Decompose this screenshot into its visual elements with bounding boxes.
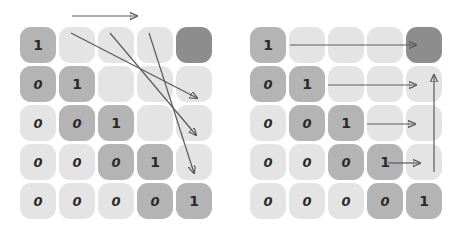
matrix-cell-value: 1	[289, 66, 325, 102]
right-matrix-grid: 101001000100001	[250, 27, 445, 222]
matrix-cell-r5-c3: 0	[328, 183, 364, 219]
matrix-cell-value	[328, 27, 364, 63]
matrix-cell-r1-c1: 1	[20, 27, 56, 63]
matrix-cell-value	[137, 27, 173, 63]
matrix-cell-value	[98, 66, 134, 102]
matrix-cell-value: 0	[328, 144, 364, 180]
matrix-cell-r5-c4: 0	[137, 183, 173, 219]
matrix-cell-r1-c3	[98, 27, 134, 63]
matrix-cell-value: 0	[20, 66, 56, 102]
matrix-cell-r3-c4	[367, 105, 403, 141]
matrix-cell-value: 0	[98, 183, 134, 219]
matrix-cell-r1-c4	[367, 27, 403, 63]
matrix-cell-r4-c4: 1	[367, 144, 403, 180]
matrix-cell-value: 0	[59, 144, 95, 180]
matrix-cell-r5-c1: 0	[20, 183, 56, 219]
matrix-cell-r1-c2	[289, 27, 325, 63]
matrix-cell-r3-c5	[176, 105, 212, 141]
matrix-cell-r1-c2	[59, 27, 95, 63]
matrix-cell-value: 0	[328, 183, 364, 219]
matrix-cell-value	[137, 66, 173, 102]
matrix-cell-r1-c3	[328, 27, 364, 63]
matrix-cell-value	[176, 66, 212, 102]
matrix-cell-value	[367, 27, 403, 63]
matrix-cell-r5-c5: 1	[176, 183, 212, 219]
matrix-cell-r1-c5	[176, 27, 212, 63]
matrix-cell-r2-c1: 0	[20, 66, 56, 102]
matrix-cell-value	[98, 27, 134, 63]
matrix-cell-r4-c3: 0	[328, 144, 364, 180]
matrix-cell-r4-c1: 0	[250, 144, 286, 180]
matrix-cell-r3-c4	[137, 105, 173, 141]
matrix-cell-value	[406, 105, 442, 141]
matrix-cell-value: 0	[289, 144, 325, 180]
matrix-cell-value	[176, 27, 212, 63]
matrix-cell-value: 0	[289, 105, 325, 141]
matrix-cell-value	[137, 105, 173, 141]
left-matrix-grid: 101001000100001	[20, 27, 215, 222]
matrix-cell-value	[176, 105, 212, 141]
matrix-cell-r4-c2: 0	[59, 144, 95, 180]
matrix-cell-value: 0	[20, 105, 56, 141]
matrix-cell-value: 1	[98, 105, 134, 141]
figure-canvas: 101001000100001 101001000100001	[0, 0, 460, 240]
matrix-cell-r5-c2: 0	[59, 183, 95, 219]
matrix-cell-r2-c2: 1	[289, 66, 325, 102]
matrix-cell-value: 1	[137, 144, 173, 180]
matrix-cell-r4-c1: 0	[20, 144, 56, 180]
matrix-cell-value: 0	[137, 183, 173, 219]
matrix-cell-value: 1	[367, 144, 403, 180]
matrix-cell-value: 0	[59, 183, 95, 219]
matrix-cell-r2-c4	[367, 66, 403, 102]
matrix-cell-value: 0	[250, 105, 286, 141]
matrix-cell-r2-c5	[406, 66, 442, 102]
matrix-cell-r2-c4	[137, 66, 173, 102]
matrix-cell-r4-c2: 0	[289, 144, 325, 180]
matrix-cell-value: 0	[250, 183, 286, 219]
matrix-cell-value: 0	[289, 183, 325, 219]
matrix-cell-value	[328, 66, 364, 102]
matrix-cell-value: 0	[59, 105, 95, 141]
matrix-cell-value	[59, 27, 95, 63]
matrix-cell-r3-c5	[406, 105, 442, 141]
matrix-cell-r5-c4: 0	[367, 183, 403, 219]
matrix-cell-r2-c5	[176, 66, 212, 102]
matrix-cell-r1-c4	[137, 27, 173, 63]
matrix-cell-value: 0	[20, 183, 56, 219]
matrix-cell-value: 1	[59, 66, 95, 102]
matrix-cell-value	[406, 144, 442, 180]
matrix-cell-value: 1	[20, 27, 56, 63]
matrix-cell-value: 0	[250, 144, 286, 180]
matrix-cell-r4-c5	[176, 144, 212, 180]
matrix-cell-r2-c3	[98, 66, 134, 102]
matrix-cell-value	[367, 105, 403, 141]
right-matrix-panel: 101001000100001	[230, 0, 460, 240]
matrix-cell-r3-c2: 0	[289, 105, 325, 141]
matrix-cell-r1-c5	[406, 27, 442, 63]
left-matrix-panel: 101001000100001	[0, 0, 230, 240]
matrix-cell-r5-c5: 1	[406, 183, 442, 219]
matrix-cell-value	[176, 144, 212, 180]
matrix-cell-r2-c1: 0	[250, 66, 286, 102]
matrix-cell-r2-c3	[328, 66, 364, 102]
matrix-cell-r4-c3: 0	[98, 144, 134, 180]
matrix-cell-value	[289, 27, 325, 63]
matrix-cell-r5-c3: 0	[98, 183, 134, 219]
matrix-cell-r5-c1: 0	[250, 183, 286, 219]
matrix-cell-r5-c2: 0	[289, 183, 325, 219]
matrix-cell-r1-c1: 1	[250, 27, 286, 63]
matrix-cell-r4-c5	[406, 144, 442, 180]
matrix-cell-r3-c1: 0	[250, 105, 286, 141]
matrix-cell-value	[406, 66, 442, 102]
matrix-cell-value: 1	[328, 105, 364, 141]
matrix-cell-r4-c4: 1	[137, 144, 173, 180]
matrix-cell-r3-c3: 1	[328, 105, 364, 141]
matrix-cell-value: 0	[98, 144, 134, 180]
matrix-cell-value: 0	[367, 183, 403, 219]
matrix-cell-r2-c2: 1	[59, 66, 95, 102]
matrix-cell-value: 1	[250, 27, 286, 63]
matrix-cell-value: 0	[250, 66, 286, 102]
matrix-cell-r3-c2: 0	[59, 105, 95, 141]
matrix-cell-value: 1	[176, 183, 212, 219]
matrix-cell-value	[367, 66, 403, 102]
